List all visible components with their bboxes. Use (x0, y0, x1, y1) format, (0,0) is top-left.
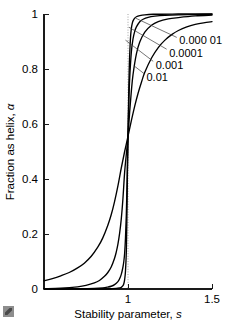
leader-line (129, 27, 167, 49)
x-tick-group: 11.5 (125, 284, 220, 305)
page-corner-artifact (3, 306, 14, 317)
y-axis-title: Fraction as helix, α (4, 103, 16, 200)
y-tick-group: 00.20.40.60.81 (22, 8, 49, 295)
helix-coil-transition-chart: 00.20.40.60.81 11.5 0.000 010.00010.0010… (0, 0, 228, 324)
series-label: 0.0001 (169, 47, 203, 59)
y-tick-label: 0.6 (22, 118, 38, 130)
y-tick-label: 0 (32, 283, 38, 295)
y-tick-label: 0.2 (22, 228, 38, 240)
x-tick-label: 1.5 (204, 293, 220, 305)
series-label: 0.01 (146, 71, 167, 83)
series-label: 0.000 01 (179, 34, 222, 46)
y-tick-label: 0.8 (22, 63, 38, 75)
series-label: 0.001 (156, 59, 184, 71)
y-tick-label: 0.4 (22, 173, 39, 185)
chart-figure: 00.20.40.60.81 11.5 0.000 010.00010.0010… (0, 0, 228, 324)
series-label-group: 0.000 010.00010.0010.01 (146, 34, 222, 83)
x-axis-title: Stability parameter, s (74, 308, 182, 320)
x-tick-label: 1 (125, 293, 131, 305)
leader-line (134, 66, 145, 74)
y-tick-label: 1 (32, 8, 38, 20)
